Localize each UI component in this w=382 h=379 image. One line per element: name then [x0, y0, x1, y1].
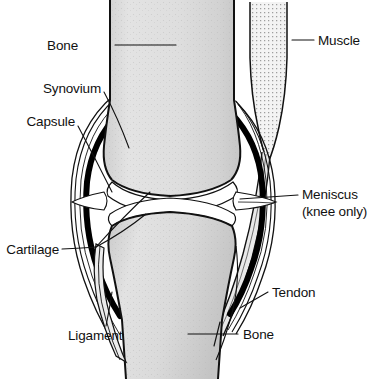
label-synovium: Synovium [43, 81, 101, 96]
label-bone-bottom: Bone [243, 327, 274, 342]
label-bone-top: Bone [47, 38, 78, 53]
label-muscle: Muscle [318, 33, 360, 48]
femur-bone [104, 0, 241, 196]
diagram-canvas: Bone Synovium Capsule Muscle Meniscus (k… [0, 0, 382, 379]
knee-anatomy-diagram: Bone Synovium Capsule Muscle Meniscus (k… [0, 0, 382, 379]
label-cartilage: Cartilage [6, 242, 59, 257]
label-tendon: Tendon [272, 285, 315, 300]
label-meniscus-line1: Meniscus [302, 187, 358, 202]
label-capsule: Capsule [27, 114, 75, 129]
label-ligament: Ligament [68, 328, 123, 343]
label-meniscus-line2: (knee only) [302, 204, 367, 219]
tibia-bone [108, 212, 235, 379]
